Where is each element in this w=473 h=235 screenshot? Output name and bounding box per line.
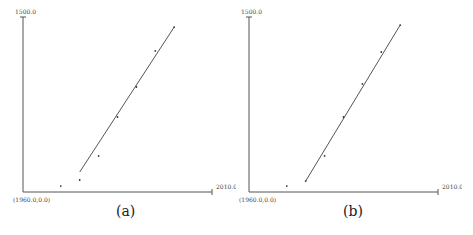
data-point	[324, 155, 326, 157]
origin-label: (1960.0,0.0)	[239, 196, 276, 203]
y-max-label: 1500.0	[15, 8, 36, 15]
fit-line	[80, 27, 175, 172]
origin-label: (1960.0,0.0)	[13, 196, 50, 203]
data-point	[136, 86, 138, 88]
data-point	[343, 116, 345, 118]
data-point	[98, 155, 100, 157]
chart-panel-a: 1500.02010.0(1960.0,0.0) (a)	[0, 0, 236, 235]
x-max-label: 2010.0	[442, 183, 462, 190]
y-max-label: 1500.0	[241, 8, 262, 15]
data-point	[117, 116, 119, 118]
data-point	[362, 83, 364, 85]
panel-caption-b: (b)	[343, 203, 363, 219]
panel-caption-a: (a)	[116, 203, 135, 219]
data-point	[399, 24, 401, 26]
data-point	[286, 185, 288, 187]
fit-line	[306, 25, 401, 181]
data-point	[305, 180, 307, 182]
data-point	[154, 50, 156, 52]
chart-a-svg: 1500.02010.0(1960.0,0.0)	[0, 0, 236, 235]
data-point	[79, 179, 81, 181]
chart-b-svg: 1500.02010.0(1960.0,0.0)	[226, 0, 462, 235]
chart-panel-b: 1500.02010.0(1960.0,0.0) (b)	[226, 0, 462, 235]
data-point	[60, 185, 62, 187]
data-point	[173, 26, 175, 28]
data-point	[380, 51, 382, 53]
